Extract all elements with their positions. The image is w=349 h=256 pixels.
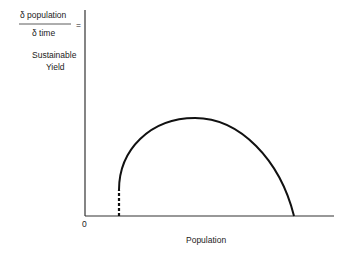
y-label-equals: = [76,20,81,30]
y-label-numerator: δ population [20,10,66,20]
chart-plot-area [0,0,349,256]
y-label-yield: Yield [46,62,65,72]
y-label-sustainable: Sustainable [32,50,76,60]
y-label-denominator: δ time [32,28,55,38]
yield-curve [119,118,294,216]
origin-label: 0 [82,219,87,229]
x-axis-label: Population [186,235,226,245]
